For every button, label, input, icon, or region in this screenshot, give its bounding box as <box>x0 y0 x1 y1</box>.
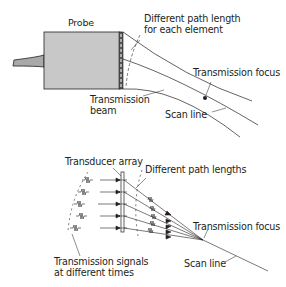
path-length-label-line2: for each element <box>144 24 223 35</box>
transmission-beam-label-line1: Transmission <box>90 94 150 105</box>
transducer-array-label: Transducer array <box>65 156 143 167</box>
probe-body <box>44 32 120 89</box>
transducer-array-bar <box>121 172 124 232</box>
transmission-beam-label-line2: beam <box>90 105 116 116</box>
signals-label-line2: at different times <box>54 267 134 278</box>
transmission-focus-dot <box>203 96 207 100</box>
diagram-graphics <box>0 0 286 287</box>
ultrasound-focusing-diagram: Probe Different path length for each ele… <box>0 0 286 287</box>
different-path-lengths-label: Different path lengths <box>145 164 246 175</box>
scan-line-label-bottom: Scan line <box>184 258 226 269</box>
signals-label-line1: Transmission signals <box>54 256 148 267</box>
transmission-focus-label-bottom: Transmission focus <box>193 221 280 232</box>
transmission-signals <box>68 172 120 232</box>
transmission-focus-label: Transmission focus <box>193 67 280 78</box>
path-length-label-line1: Different path length <box>144 13 240 24</box>
probe-cable <box>13 55 44 67</box>
scan-line-label: Scan line <box>165 109 207 120</box>
probe-label: Probe <box>68 17 94 28</box>
